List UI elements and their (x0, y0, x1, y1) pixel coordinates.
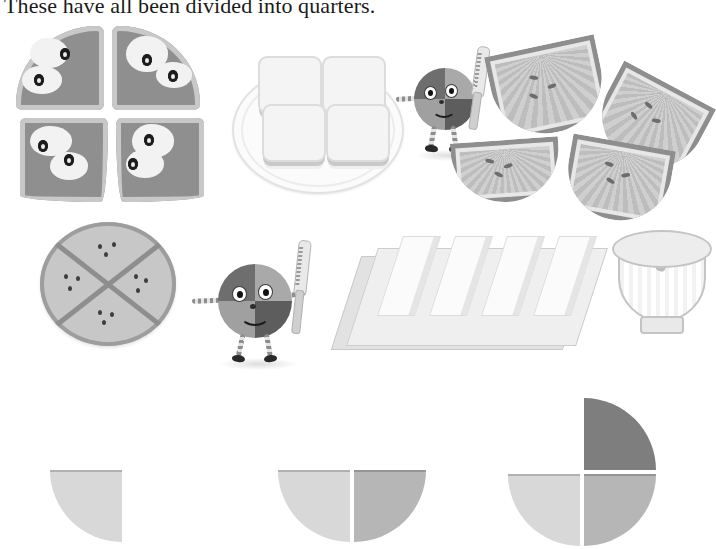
pizza-quarter (20, 118, 108, 202)
quarter-piece (508, 474, 580, 546)
mascot-shadow (220, 358, 298, 370)
melon-quarter (560, 134, 676, 229)
bowl-rim (612, 230, 712, 268)
illustration-butter-block (346, 232, 594, 360)
pizza-quarter (16, 26, 104, 110)
illustration-round-cake (40, 222, 176, 346)
pizza-olive (128, 158, 138, 170)
mascot-smile (432, 100, 456, 118)
quarter-piece (50, 470, 122, 542)
quarter-piece (354, 470, 426, 542)
mascot-eye (258, 284, 273, 300)
mascot-smile (240, 304, 270, 326)
pizza-olive (38, 140, 48, 152)
page-title: These have all been divided into quarter… (4, 0, 375, 19)
quarter-piece (584, 474, 656, 546)
mascot-with-knife (206, 248, 316, 360)
knife-icon (287, 239, 313, 334)
cake-body (40, 222, 176, 346)
mascot-eye (232, 286, 247, 302)
mascot-eye (424, 86, 437, 100)
pizza-quarter (112, 26, 200, 110)
bowl-foot (640, 316, 684, 334)
quarter-piece (278, 470, 350, 542)
pizza-olive (60, 48, 70, 60)
pizza-olive (168, 70, 178, 82)
mascot-eye (445, 84, 458, 98)
sandwich-quarter (262, 104, 326, 162)
pizza-quarter (116, 118, 204, 202)
mascot-body (218, 264, 292, 338)
sandwich-quarter (326, 104, 390, 162)
pizza-olive (144, 134, 154, 146)
pizza-olive (64, 154, 74, 166)
illustration-bowl (612, 230, 708, 336)
melon-quarter (450, 136, 562, 205)
quarter-piece (584, 398, 656, 470)
pizza-olive (34, 74, 44, 86)
quarter-set-two (278, 470, 438, 549)
pizza-olive (142, 54, 152, 66)
quarter-set-three (508, 398, 668, 548)
quarter-set-one (50, 470, 210, 549)
illustration-sandwich (232, 44, 404, 204)
illustration-pizza (16, 26, 206, 206)
